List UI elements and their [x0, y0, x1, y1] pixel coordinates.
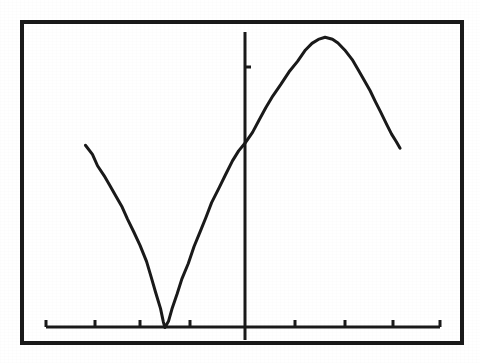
figure-canvas	[0, 0, 480, 363]
figure-background	[0, 0, 480, 363]
plot-svg	[0, 0, 480, 363]
